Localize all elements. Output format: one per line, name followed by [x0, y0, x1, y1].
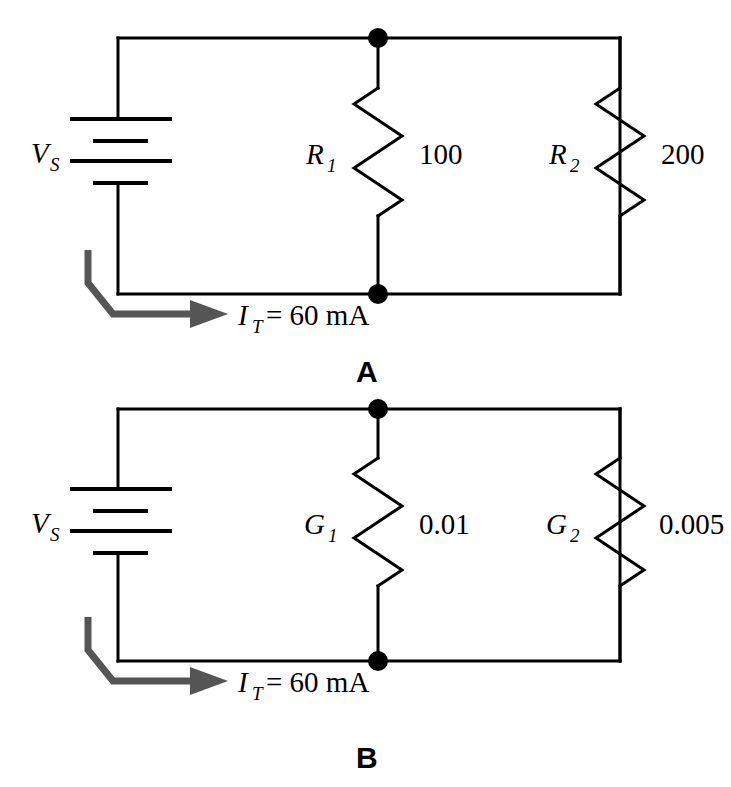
current-value-b: = 60 mA [266, 666, 369, 698]
current-label-a: I T = 60 mA [237, 299, 369, 337]
current-label-b: I T = 60 mA [237, 666, 369, 704]
current-value-a: = 60 mA [266, 299, 369, 331]
resistor-g1-value-b: 0.01 [419, 508, 470, 540]
resistor-r1-value-a: 100 [419, 138, 463, 170]
resistor-g2-subscript-b: 2 [570, 525, 580, 546]
resistor-g2-symbol-b: G [546, 508, 567, 540]
resistor-g1-label-b: G 1 [304, 508, 338, 546]
resistor-r1-zigzag-a [354, 88, 402, 216]
source-label-b: V S [31, 507, 60, 545]
panel-letter-b: B [356, 741, 378, 774]
circuit-figure: V S R 1 100 R 2 200 [0, 0, 731, 787]
source-label-a: V S [31, 137, 60, 175]
resistor-r1-symbol-a: R [305, 138, 324, 170]
source-subscript-b: S [50, 524, 60, 545]
current-symbol-a: I [237, 299, 249, 331]
resistor-g1-subscript-b: 1 [328, 525, 338, 546]
resistor-r2-label-a: R 2 [548, 138, 580, 176]
source-symbol-a: V [31, 137, 52, 169]
circuit-diagram-canvas: V S R 1 100 R 2 200 [0, 0, 731, 787]
current-subscript-b: T [252, 683, 264, 704]
resistor-r1-label-a: R 1 [305, 138, 337, 176]
resistor-g2-label-b: G 2 [546, 508, 580, 546]
top-node-dot-a [368, 28, 388, 48]
bottom-node-dot-b [368, 651, 388, 671]
current-arrow-head-a [190, 300, 228, 328]
current-subscript-a: T [252, 316, 264, 337]
resistor-g1-zigzag-b [354, 458, 402, 586]
resistor-r2-symbol-a: R [548, 138, 567, 170]
current-symbol-b: I [237, 666, 249, 698]
resistor-g2-value-b: 0.005 [659, 508, 724, 540]
source-subscript-a: S [50, 154, 60, 175]
top-node-dot-b [368, 399, 388, 419]
panel-letter-a: A [356, 355, 378, 388]
source-symbol-b: V [31, 507, 52, 539]
resistor-r2-value-a: 200 [661, 138, 705, 170]
panel-b: V S G 1 0.01 G 2 0.005 [31, 399, 724, 774]
resistor-g1-symbol-b: G [304, 508, 325, 540]
resistor-r1-subscript-a: 1 [327, 155, 337, 176]
resistor-r2-subscript-a: 2 [570, 155, 580, 176]
current-arrow-head-b [190, 667, 228, 695]
current-arrow-path-b [88, 617, 192, 681]
panel-a: V S R 1 100 R 2 200 [31, 28, 705, 388]
bottom-node-dot-a [368, 284, 388, 304]
current-arrow-path-a [88, 250, 192, 314]
